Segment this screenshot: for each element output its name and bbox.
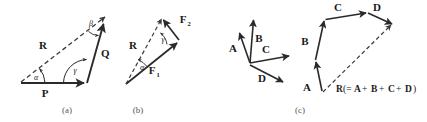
- angle-beta-arc: [89, 32, 99, 36]
- chain-vector-c-label: C: [334, 1, 342, 13]
- panel-a-group: P Q R α β γ (a): [21, 17, 110, 115]
- figure-canvas: P Q R α β γ (a) F 1 F: [0, 0, 427, 122]
- angle-alpha-b-label: α: [140, 63, 145, 72]
- vector-f1-subscript: 1: [156, 71, 159, 78]
- free-vector-a-label: A: [229, 42, 237, 54]
- resultant-symbol: R: [336, 84, 343, 94]
- resultant-equation: R (= A + B + C + D ): [336, 84, 416, 95]
- resultant-open-paren: (=: [343, 84, 352, 95]
- chain-vector-a-label: A: [303, 81, 311, 93]
- vector-r-b-label: R: [129, 39, 138, 51]
- vector-f2-label: F: [180, 13, 187, 25]
- free-vector-b-arrow: [250, 20, 254, 63]
- chain-vector-c-arrow: [326, 13, 367, 20]
- free-vector-c-label: C: [262, 43, 270, 55]
- chain-vector-d-label: D: [373, 1, 381, 13]
- angle-beta-label: β: [88, 19, 93, 28]
- chain-vector-a-arrow: [316, 62, 322, 91]
- free-vector-c-arrow: [250, 56, 289, 63]
- vector-f2-label-group: F 2: [180, 13, 191, 27]
- angle-gamma-b-label: γ: [161, 35, 165, 44]
- panel-a-caption: (a): [62, 105, 72, 115]
- free-vector-d-arrow: [250, 65, 283, 82]
- vector-f1-label: F: [149, 64, 156, 76]
- resultant-plus-2: +: [379, 84, 384, 94]
- resultant-term-a: A: [354, 84, 361, 94]
- vector-f2-subscript: 2: [187, 20, 190, 27]
- panel-c-free-vectors-group: A B C D: [229, 20, 289, 84]
- chain-vector-b-label: B: [301, 35, 309, 47]
- chain-vector-b-arrow: [316, 21, 325, 60]
- angle-gamma-label: γ: [73, 66, 77, 75]
- vector-p-label: P: [42, 87, 49, 99]
- angle-alpha-arc: [40, 69, 46, 83]
- resultant-term-c: C: [388, 84, 395, 94]
- free-vector-a-arrow: [240, 33, 251, 63]
- vector-r-label: R: [39, 39, 48, 51]
- chain-vector-d-arrow: [368, 13, 392, 24]
- chain-vector-r-arrow: [323, 25, 391, 92]
- vector-f1-label-group: F 1: [149, 64, 160, 78]
- vector-addition-figure: P Q R α β γ (a) F 1 F: [0, 0, 427, 122]
- angle-alpha-label: α: [34, 73, 39, 82]
- resultant-close-paren: ): [413, 84, 416, 95]
- panel-b-group: F 1 F 2 R α γ (b): [126, 13, 191, 115]
- resultant-term-d: D: [405, 84, 412, 94]
- vector-f2-arrow: [164, 20, 180, 40]
- panel-b-caption: (b): [133, 105, 144, 115]
- free-vector-d-label: D: [258, 72, 266, 84]
- panel-c-polygon-group: A B C D R (= A + B + C + D ) (c): [295, 1, 416, 115]
- vector-q-label: Q: [101, 47, 110, 59]
- resultant-plus-3: +: [396, 84, 401, 94]
- resultant-term-b: B: [371, 84, 378, 94]
- panel-c-caption: (c): [295, 105, 305, 115]
- resultant-plus-1: +: [362, 84, 367, 94]
